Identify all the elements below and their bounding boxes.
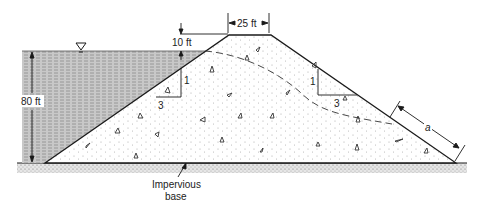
seepage-length-label: a (425, 122, 431, 133)
freeboard-label: 10 ft (172, 37, 192, 48)
impervious-base-label-line1: Impervious (152, 179, 201, 190)
dam-diagram: 1 3 1 3 25 ft 10 ft 80 ft (0, 0, 492, 212)
upstream-slope-h-label: 3 (158, 100, 164, 111)
crest-width-label: 25 ft (237, 18, 257, 29)
downstream-slope-h-label: 3 (334, 98, 340, 109)
impervious-base-label-line2: base (165, 191, 187, 202)
upstream-slope-v-label: 1 (184, 75, 190, 86)
downstream-slope-v-label: 1 (310, 76, 316, 87)
water-depth-label: 80 ft (21, 96, 41, 107)
impervious-base (17, 163, 467, 173)
